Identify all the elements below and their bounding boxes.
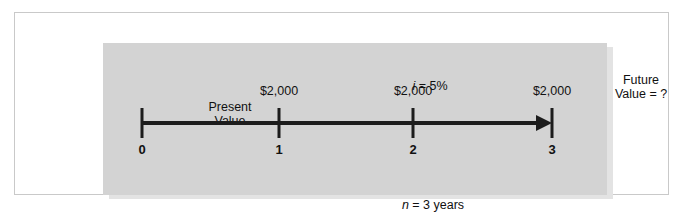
future-value-label: Future Value = ? [615,73,667,101]
timeline-tick-1 [278,108,281,138]
future-value-line2: Value = ? [615,87,667,101]
cash-flow-amount-2: $2,000 [394,84,432,98]
timeline-tick-2 [412,108,415,138]
future-value-line1: Future [615,73,667,87]
timeline-panel: i = 5% Present Value Future Value = ? 0 [103,43,607,195]
timeline-tick-3 [551,108,554,138]
periods-value: 3 years [423,198,464,209]
period-number-0: 0 [138,142,145,157]
figure-root: i = 5% Present Value Future Value = ? 0 [0,0,685,209]
period-number-1: 1 [275,142,282,157]
timeline-tick-0 [141,108,144,138]
periods-symbol: n [402,198,409,209]
cash-flow-amount-3: $2,000 [533,84,571,98]
periods-label: n = 3 years [402,198,464,209]
timeline-axis-group: 0 1 2 3 $2,000 $2,000 $2,000 [103,43,607,195]
period-number-2: 2 [409,142,416,157]
periods-equals: = [409,198,423,209]
period-number-3: 3 [548,142,555,157]
figure-outer-frame: i = 5% Present Value Future Value = ? 0 [14,12,669,195]
timeline-axis-line [142,121,544,125]
cash-flow-amount-1: $2,000 [260,84,298,98]
